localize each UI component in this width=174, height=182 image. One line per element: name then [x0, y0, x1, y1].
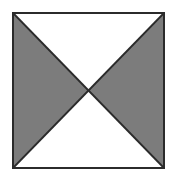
- figure-canvas: [0, 0, 174, 182]
- bowtie-square-figure: [0, 0, 174, 182]
